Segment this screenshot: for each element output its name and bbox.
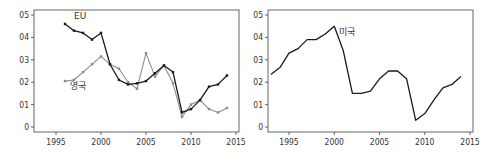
data-point-marker — [118, 68, 120, 70]
data-point-marker — [82, 32, 84, 34]
data-point-marker — [190, 103, 192, 105]
y-tick-label: 03 — [19, 55, 29, 65]
x-tick-label: 2005 — [370, 137, 390, 147]
data-point-marker — [91, 38, 93, 40]
data-point-marker — [154, 75, 156, 77]
x-tick-label: 2015 — [226, 137, 246, 147]
y-tick-label: 04 — [253, 32, 263, 42]
chart-figure: 0010203040519952000200520102015EU영국 0010… — [0, 0, 492, 154]
data-point-marker — [64, 80, 66, 82]
data-point-marker — [100, 55, 102, 57]
data-point-marker — [64, 23, 66, 25]
series-us — [271, 26, 461, 120]
x-tick-label: 2015 — [460, 137, 480, 147]
x-tick-label: 2000 — [91, 137, 111, 147]
data-point-marker — [163, 64, 165, 66]
series-line — [271, 26, 461, 120]
y-tick-label: 01 — [253, 100, 263, 110]
data-point-marker — [82, 71, 84, 73]
x-tick-label: 1995 — [46, 137, 66, 147]
data-point-marker — [190, 108, 192, 110]
data-point-marker — [91, 63, 93, 65]
series-label: 미국 — [339, 27, 355, 37]
right-chart-us: 0010203040519952000200520102015미국 — [253, 10, 480, 147]
data-point-marker — [136, 88, 138, 90]
data-point-marker — [145, 52, 147, 54]
data-point-marker — [226, 74, 228, 76]
data-point-marker — [145, 80, 147, 82]
data-point-marker — [217, 111, 219, 113]
plot-frame — [34, 10, 239, 132]
series-line — [65, 24, 227, 112]
x-tick-label: 2010 — [415, 137, 435, 147]
data-point-marker — [136, 82, 138, 84]
data-point-marker — [154, 72, 156, 74]
data-point-marker — [199, 99, 201, 101]
data-point-marker — [73, 29, 75, 31]
data-point-marker — [208, 85, 210, 87]
data-point-marker — [172, 71, 174, 73]
y-tick-label: 03 — [253, 55, 263, 65]
y-tick-label: 0 — [24, 122, 29, 132]
y-tick-label: 02 — [253, 77, 263, 87]
series-eu — [64, 23, 228, 114]
y-tick-label: 02 — [19, 77, 29, 87]
data-point-marker — [217, 83, 219, 85]
series-uk — [64, 52, 228, 118]
x-tick-label: 2005 — [136, 137, 156, 147]
series-label: 영국 — [70, 81, 86, 91]
data-point-marker — [127, 83, 129, 85]
x-tick-label: 1995 — [279, 137, 299, 147]
data-point-marker — [208, 108, 210, 110]
data-point-marker — [226, 107, 228, 109]
plot-frame — [268, 10, 473, 132]
y-tick-label: 04 — [19, 32, 29, 42]
x-tick-label: 2010 — [181, 137, 201, 147]
data-point-marker — [172, 82, 174, 84]
y-tick-label: 01 — [19, 100, 29, 110]
data-point-marker — [127, 81, 129, 83]
left-chart-eu-uk: 0010203040519952000200520102015EU영국 — [19, 10, 246, 147]
series-label: EU — [74, 11, 86, 21]
x-tick-label: 2000 — [325, 137, 345, 147]
y-tick-label: 0 — [258, 122, 263, 132]
data-point-marker — [100, 32, 102, 34]
series-line — [65, 53, 227, 117]
y-tick-label: 05 — [253, 10, 263, 20]
data-point-marker — [118, 79, 120, 81]
data-point-marker — [109, 63, 111, 65]
y-tick-label: 05 — [19, 10, 29, 20]
data-point-marker — [181, 116, 183, 118]
data-point-marker — [181, 111, 183, 113]
